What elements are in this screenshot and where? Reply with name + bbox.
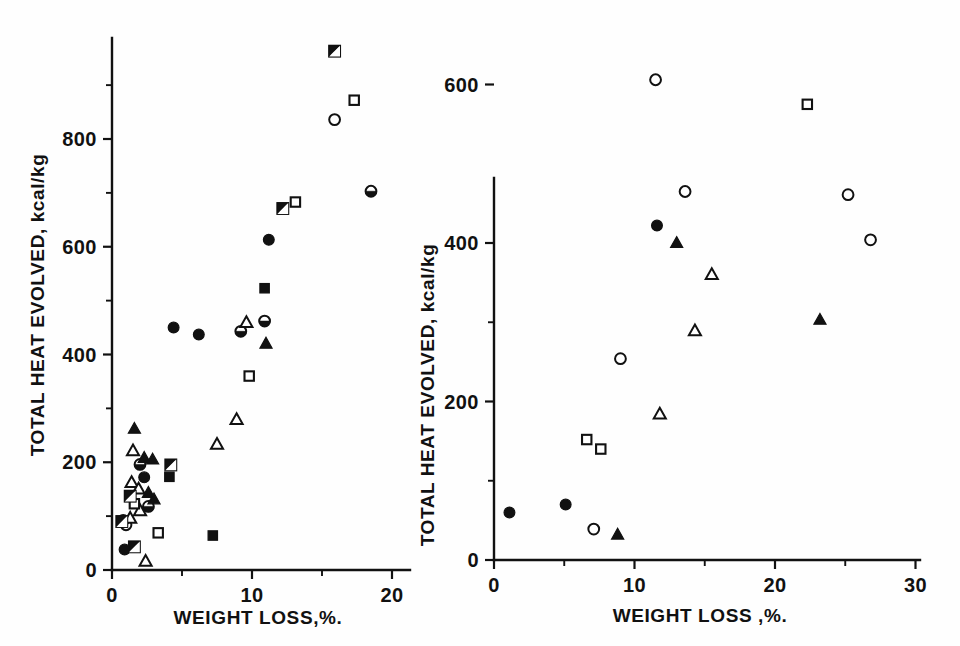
- data-point-filled-triangle: [814, 313, 826, 324]
- data-point-filled-square: [260, 284, 269, 293]
- y-tick-label: 400: [444, 232, 479, 254]
- data-point-open-triangle: [240, 316, 252, 327]
- y-tick-label: 600: [444, 74, 479, 96]
- x-tick-label: 0: [106, 584, 118, 606]
- data-point-filled-square: [165, 472, 174, 481]
- data-point-open-triangle: [211, 438, 223, 449]
- data-point-filled-circle: [504, 507, 515, 518]
- series-open-circle: [588, 74, 876, 534]
- y-tick-label: 400: [62, 344, 97, 366]
- y-tick-label: 0: [467, 549, 479, 571]
- data-point-filled-circle: [652, 220, 663, 231]
- series-open-triangle: [124, 316, 252, 565]
- tick-labels-left: 020040060080001020: [62, 128, 404, 606]
- data-point-half-circle: [366, 186, 377, 197]
- data-point-open-triangle: [140, 555, 152, 566]
- series-filled-square: [165, 284, 270, 541]
- y-tick-label: 200: [62, 451, 97, 473]
- x-tick-label: 30: [904, 574, 927, 596]
- data-point-open-square: [803, 100, 812, 109]
- data-point-half-square: [165, 460, 176, 471]
- x-tick-label: 0: [488, 574, 500, 596]
- series-half-circle: [118, 186, 377, 526]
- data-point-open-triangle: [654, 408, 666, 419]
- data-point-open-circle: [843, 189, 854, 200]
- data-points-left: [116, 46, 376, 566]
- data-point-open-square: [291, 197, 300, 206]
- data-point-filled-triangle: [671, 237, 683, 248]
- y-tick-label: 600: [62, 236, 97, 258]
- series-open-square: [130, 96, 359, 538]
- y-tick-label: 200: [444, 391, 479, 413]
- data-point-open-square: [596, 444, 605, 453]
- data-point-half-square: [277, 203, 288, 214]
- data-point-half-square: [329, 46, 340, 57]
- data-point-open-triangle: [126, 476, 138, 487]
- data-point-filled-square: [208, 531, 217, 540]
- data-point-open-triangle: [231, 413, 243, 424]
- data-point-half-circle: [259, 316, 270, 327]
- series-open-triangle: [654, 268, 718, 418]
- scatter-panel-right: 02004006000102030 WEIGHT LOSS ,%. TOTAL …: [400, 0, 960, 646]
- data-point-open-circle: [615, 353, 626, 364]
- data-point-filled-triangle: [128, 422, 140, 433]
- data-point-filled-circle: [560, 499, 571, 510]
- x-tick-label: 10: [240, 584, 263, 606]
- scatter-plot-right: 02004006000102030 WEIGHT LOSS ,%. TOTAL …: [400, 0, 960, 646]
- data-point-filled-circle: [263, 234, 274, 245]
- data-point-open-circle: [650, 74, 661, 85]
- data-point-open-triangle: [127, 445, 139, 456]
- data-point-half-square: [129, 541, 140, 552]
- data-point-open-circle: [329, 114, 340, 125]
- data-point-open-circle: [588, 524, 599, 535]
- data-point-filled-circle: [139, 472, 150, 483]
- x-tick-label: 10: [623, 574, 646, 596]
- tick-labels-right: 02004006000102030: [444, 74, 927, 597]
- y-axis-title-left: TOTAL HEAT EVOLVED, kcal/kg: [27, 154, 48, 457]
- x-tick-label: 20: [763, 574, 786, 596]
- figure-root: 020040060080001020 WEIGHT LOSS,%. TOTAL …: [0, 0, 960, 646]
- series-filled-triangle: [612, 237, 826, 539]
- y-tick-label: 800: [62, 128, 97, 150]
- data-point-open-square: [350, 96, 359, 105]
- data-point-open-circle: [865, 234, 876, 245]
- y-axis-title-right: TOTAL HEAT EVOLVED, kcal/kg: [417, 244, 438, 547]
- series-open-circle: [121, 114, 340, 530]
- y-tick-label: 0: [85, 559, 97, 581]
- data-point-open-triangle: [689, 325, 701, 336]
- data-point-filled-triangle: [260, 337, 272, 348]
- x-axis-title-right: WEIGHT LOSS ,%.: [613, 605, 788, 626]
- data-points-right: [504, 74, 876, 539]
- data-point-open-triangle: [706, 268, 718, 279]
- series-open-square: [582, 100, 812, 454]
- data-point-open-square: [245, 371, 254, 380]
- series-filled-circle: [504, 220, 662, 518]
- data-point-half-square: [125, 491, 136, 502]
- data-point-filled-circle: [193, 329, 204, 340]
- x-axis-title-left: WEIGHT LOSS,%.: [174, 607, 343, 628]
- data-point-open-square: [154, 528, 163, 537]
- data-point-open-square: [582, 435, 591, 444]
- data-point-filled-circle: [168, 322, 179, 333]
- axes-right: [485, 85, 920, 570]
- data-point-filled-triangle: [612, 528, 624, 539]
- data-point-open-circle: [680, 186, 691, 197]
- data-point-half-square: [116, 516, 127, 527]
